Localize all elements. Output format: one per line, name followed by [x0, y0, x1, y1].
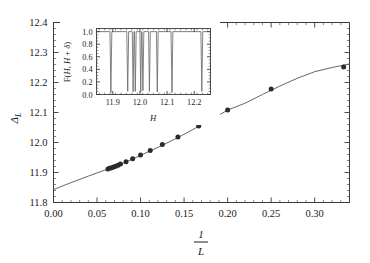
- x-tick-label: 0.05: [88, 208, 106, 219]
- figure-container: 0.000.050.100.150.200.250.30 11.811.912.…: [0, 0, 370, 263]
- inset-y-tick-label: 0.4: [82, 65, 92, 74]
- y-axis-tick-labels: 11.811.912.012.112.212.312.4: [29, 17, 48, 208]
- data-point: [160, 142, 165, 147]
- x-tick-label: 0.30: [305, 208, 323, 219]
- inset-ylabel-prefix: F(: [62, 74, 72, 82]
- inset-y-tick-label: 1.0: [82, 28, 92, 37]
- inset-ylabel-suffix: ): [62, 42, 72, 45]
- inset-x-axis-label: H: [149, 113, 157, 123]
- data-point: [269, 87, 274, 92]
- data-point: [138, 153, 143, 158]
- y-tick-label: 11.8: [30, 197, 48, 208]
- x-axis-tick-labels: 0.000.050.100.150.200.250.30: [44, 208, 324, 219]
- data-point: [124, 159, 129, 164]
- inset-ylabel-plus: +: [62, 49, 72, 58]
- svg-text:F(H, H + δ): F(H, H + δ): [62, 42, 72, 83]
- y-axis-label: ΔL: [8, 112, 23, 124]
- x-tick-label: 0.20: [218, 208, 236, 219]
- data-point: [175, 135, 180, 140]
- x-tick-label: 0.25: [262, 208, 280, 219]
- inset-y-tick-label: 0.8: [82, 40, 92, 49]
- data-point: [341, 64, 346, 69]
- x-axis-label: 1 L: [194, 228, 208, 257]
- y-tick-label: 12.1: [29, 107, 47, 118]
- inset-y-tick-label: 0.6: [82, 53, 92, 62]
- x-tick-label: 0.15: [175, 208, 193, 219]
- y-tick-label: 12.0: [29, 137, 47, 148]
- inset-x-tick-label: 12.2: [187, 98, 201, 107]
- scientific-plot: 0.000.050.100.150.200.250.30 11.811.912.…: [0, 0, 370, 263]
- data-point: [148, 148, 153, 153]
- x-axis-label-numerator: 1: [198, 228, 204, 240]
- y-axis-label-delta: Δ: [8, 117, 20, 124]
- data-point: [118, 162, 123, 167]
- y-tick-label: 12.4: [29, 17, 48, 28]
- inset-x-tick-label: 12.0: [133, 98, 147, 107]
- inset-x-tick-label: 11.9: [106, 98, 120, 107]
- y-tick-label: 12.3: [29, 47, 47, 58]
- data-point: [225, 108, 230, 113]
- y-tick-label: 12.2: [29, 77, 47, 88]
- svg-text:ΔL: ΔL: [8, 112, 23, 124]
- inset-x-tick-label: 12.1: [160, 98, 174, 107]
- inset-y-axis-label: F(H, H + δ): [62, 42, 72, 83]
- x-tick-label: 0.10: [131, 208, 149, 219]
- y-tick-label: 11.9: [30, 167, 48, 178]
- x-axis-label-denominator: L: [197, 245, 204, 257]
- inset-y-tick-label: 0.2: [82, 78, 92, 87]
- inset-y-tick-label: 0.0: [82, 91, 92, 100]
- x-tick-label: 0.00: [44, 208, 62, 219]
- inset-plot-group: 11.912.012.112.2 0.00.20.40.60.81.0 F(H,…: [60, 20, 220, 125]
- y-axis-label-subscript: L: [14, 112, 23, 118]
- data-point: [130, 156, 135, 161]
